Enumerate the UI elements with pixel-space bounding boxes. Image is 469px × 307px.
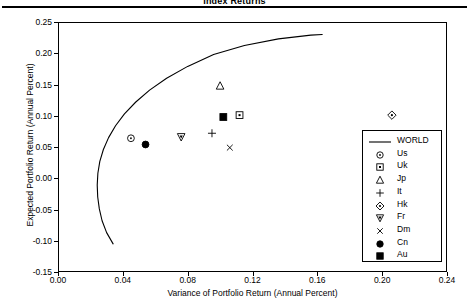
legend-item-dm[interactable]: Dm <box>363 223 443 235</box>
legend-label: It <box>397 185 402 197</box>
legend-marker-circle-dot-icon <box>365 147 395 159</box>
data-point-cn <box>142 141 149 148</box>
legend-marker-square-dot-icon <box>365 159 395 171</box>
legend-item-fr[interactable]: Fr <box>363 210 443 222</box>
legend-item-hk[interactable]: Hk <box>363 198 443 210</box>
legend-label: Hk <box>397 198 407 210</box>
legend-label: Jp <box>397 172 406 184</box>
legend-item-it[interactable]: It <box>363 185 443 197</box>
data-point-jp <box>216 82 224 89</box>
data-point-uk <box>236 112 243 119</box>
legend-label: Fr <box>397 210 405 222</box>
legend-item-au[interactable]: Au <box>363 248 443 260</box>
legend-marker-triangle-down-dot-icon <box>365 210 395 222</box>
data-point-dm <box>227 145 233 151</box>
legend-marker-cross-icon <box>365 223 395 235</box>
legend-label: Us <box>397 147 407 159</box>
legend-marker-plus-icon <box>365 185 395 197</box>
legend-item-jp[interactable]: Jp <box>363 172 443 184</box>
legend-marker-filled-circle-icon <box>365 236 395 248</box>
legend-marker-triangle-up-icon <box>365 172 395 184</box>
data-point-fr <box>177 134 185 141</box>
frontier-curve-world <box>97 35 322 244</box>
legend-item-world[interactable]: WORLD <box>363 134 443 146</box>
data-point-hk <box>388 111 396 119</box>
legend-label: Cn <box>397 236 408 248</box>
chart-legend[interactable]: WORLDUsUkJpItHkFrDmCnAu <box>362 130 442 262</box>
legend-label: Uk <box>397 159 407 171</box>
legend-item-cn[interactable]: Cn <box>363 236 443 248</box>
legend-label: Au <box>397 248 407 260</box>
data-point-us <box>128 135 135 142</box>
data-point-it <box>208 129 216 137</box>
legend-label: Dm <box>397 223 410 235</box>
legend-item-us[interactable]: Us <box>363 147 443 159</box>
legend-marker-line-icon <box>365 134 395 146</box>
data-point-au <box>220 114 227 121</box>
legend-marker-diamond-dot-icon <box>365 198 395 210</box>
legend-label: WORLD <box>397 134 429 146</box>
legend-marker-filled-square-icon <box>365 248 395 260</box>
legend-item-uk[interactable]: Uk <box>363 159 443 171</box>
figure-root: Index Returns 0.250.200.150.100.050.00-0… <box>0 0 469 307</box>
